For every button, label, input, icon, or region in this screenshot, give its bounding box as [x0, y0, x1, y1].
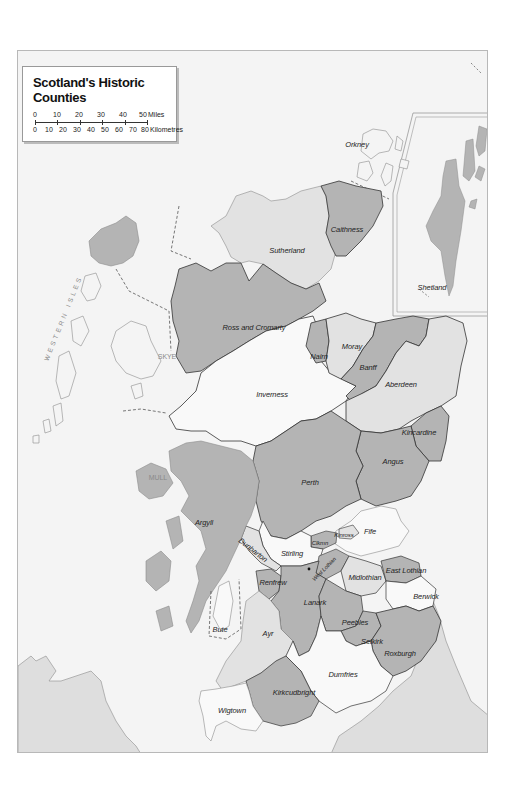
label-nairn: Nairn: [310, 352, 327, 361]
scale-line: [35, 122, 148, 123]
label-midlothian: Midlothian: [348, 573, 381, 582]
label-banff: Banff: [359, 363, 376, 372]
scale-tick: [125, 120, 126, 125]
label-orkney: Orkney: [345, 140, 369, 149]
county-caithness: [321, 181, 383, 256]
label-bute: Bute: [212, 625, 227, 634]
scale-bar: 0 10 20 30 40 50 Miles 0 10 20 30 40 50 …: [33, 111, 173, 137]
label-wigtown: Wigtown: [218, 706, 246, 715]
skye-island: [111, 321, 161, 399]
label-angus: Angus: [383, 457, 404, 466]
scale-tick: [147, 120, 148, 125]
label-ayr: Ayr: [263, 629, 274, 638]
scale-tick: [57, 120, 58, 125]
islay-jura: [146, 516, 183, 631]
scale-km-unit: Kilometres: [150, 126, 183, 133]
label-renfrew: Renfrew: [259, 578, 286, 587]
label-clackmannan: Clkmn: [312, 540, 329, 546]
map-frame: Orkney Shetland Caithness Sutherland Ros…: [17, 50, 488, 753]
label-perth: Perth: [301, 478, 318, 487]
scale-km-tick: 30: [73, 126, 81, 133]
label-shetland: Shetland: [418, 283, 447, 292]
label-selkirk: Selkirk: [361, 637, 383, 646]
scale-km-tick: 50: [101, 126, 109, 133]
label-kinross: Kinross: [334, 532, 353, 538]
scale-mile-tick: 20: [75, 111, 83, 118]
legend-title: Scotland's Historic Counties: [33, 75, 176, 105]
shetland-islands: [426, 126, 487, 296]
label-ross-and-cromarty: Ross and Cromarty: [223, 323, 286, 332]
scale-km-tick: 40: [87, 126, 95, 133]
scale-km-tick: 0: [33, 126, 37, 133]
label-caithness: Caithness: [331, 225, 363, 234]
label-kincardine: Kincardine: [402, 428, 436, 437]
scale-mile-tick: 30: [97, 111, 105, 118]
county-bute: [213, 581, 233, 631]
label-stirling: Stirling: [281, 549, 303, 558]
scale-km-tick: 80: [141, 126, 149, 133]
label-east-lothian: East Lothian: [386, 566, 427, 575]
label-dumfries: Dumfries: [328, 670, 357, 679]
label-peebles: Peebles: [342, 618, 368, 627]
mull-island: [136, 463, 173, 499]
label-berwick: Berwick: [413, 592, 439, 601]
scale-mile-tick: 50: [139, 111, 147, 118]
location-dot: [308, 568, 311, 571]
scale-tick: [102, 120, 103, 125]
scale-mile-tick: 40: [119, 111, 127, 118]
label-lanark: Lanark: [304, 598, 326, 607]
scale-km-tick: 60: [115, 126, 123, 133]
label-skye: SKYE: [158, 353, 176, 360]
label-argyll: Argyll: [195, 518, 213, 527]
label-sutherland: Sutherland: [269, 246, 304, 255]
northern-ireland-land: [18, 656, 141, 753]
label-mull: MULL: [149, 474, 167, 481]
scale-mile-tick: 0: [33, 111, 37, 118]
label-moray: Moray: [342, 342, 362, 351]
label-kirkcudbright: Kirkcudbright: [273, 688, 315, 697]
label-aberdeen: Aberdeen: [385, 380, 417, 389]
scale-km-tick: 70: [129, 126, 137, 133]
scale-tick: [80, 120, 81, 125]
map-legend: Scotland's Historic Counties 0 10 20 30 …: [22, 66, 177, 142]
lewis-ross: [89, 216, 139, 266]
scale-tick: [35, 120, 36, 125]
label-roxburgh: Roxburgh: [384, 649, 416, 658]
scale-km-tick: 20: [59, 126, 67, 133]
scotland-map: [18, 51, 488, 753]
label-fife: Fife: [364, 527, 376, 536]
scale-mile-tick: 10: [53, 111, 61, 118]
label-inverness: Inverness: [256, 390, 288, 399]
scale-miles-unit: Miles: [148, 111, 164, 118]
scale-km-tick: 10: [45, 126, 53, 133]
